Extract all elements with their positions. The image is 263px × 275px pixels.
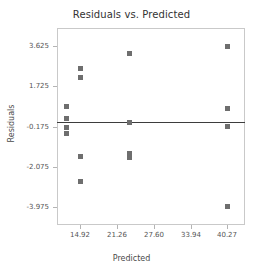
y-tick-label: 1.725 xyxy=(15,82,49,90)
y-tick-mark xyxy=(53,86,57,87)
reference-line xyxy=(57,122,245,123)
y-tick-mark xyxy=(53,127,57,128)
data-point-marker xyxy=(64,125,69,130)
data-point-marker xyxy=(127,120,132,125)
data-point-marker xyxy=(225,106,230,111)
data-point-marker xyxy=(78,75,83,80)
x-tick-mark xyxy=(117,225,118,229)
data-point-marker xyxy=(64,116,69,121)
data-point-marker xyxy=(225,124,230,129)
x-axis-title: Predicted xyxy=(0,254,263,263)
data-point-marker xyxy=(78,66,83,71)
x-tick-label: 21.26 xyxy=(99,231,135,239)
y-tick-label: -0.175 xyxy=(15,123,49,131)
x-tick-label: 40.27 xyxy=(209,231,245,239)
data-point-marker xyxy=(225,44,230,49)
residuals-vs-predicted-chart: Residuals vs. Predicted Residuals Predic… xyxy=(0,0,263,275)
x-tick-mark xyxy=(154,225,155,229)
x-tick-label: 33.94 xyxy=(173,231,209,239)
data-point-marker xyxy=(127,151,132,160)
y-tick-label: 3.625 xyxy=(15,42,49,50)
data-point-marker xyxy=(78,179,83,184)
y-tick-label: -3.975 xyxy=(15,203,49,211)
data-point-marker xyxy=(64,131,69,136)
data-point-marker xyxy=(64,104,69,109)
chart-title: Residuals vs. Predicted xyxy=(0,9,263,20)
x-tick-mark xyxy=(227,225,228,229)
x-tick-mark xyxy=(80,225,81,229)
y-tick-label: -2.075 xyxy=(15,163,49,171)
data-point-marker xyxy=(78,154,83,159)
x-tick-mark xyxy=(191,225,192,229)
x-tick-label: 14.92 xyxy=(62,231,98,239)
y-tick-mark xyxy=(53,46,57,47)
data-point-marker xyxy=(127,51,132,56)
y-tick-mark xyxy=(53,207,57,208)
y-tick-mark xyxy=(53,167,57,168)
plot-area xyxy=(57,28,245,225)
data-point-marker xyxy=(225,204,230,209)
x-tick-label: 27.60 xyxy=(136,231,172,239)
